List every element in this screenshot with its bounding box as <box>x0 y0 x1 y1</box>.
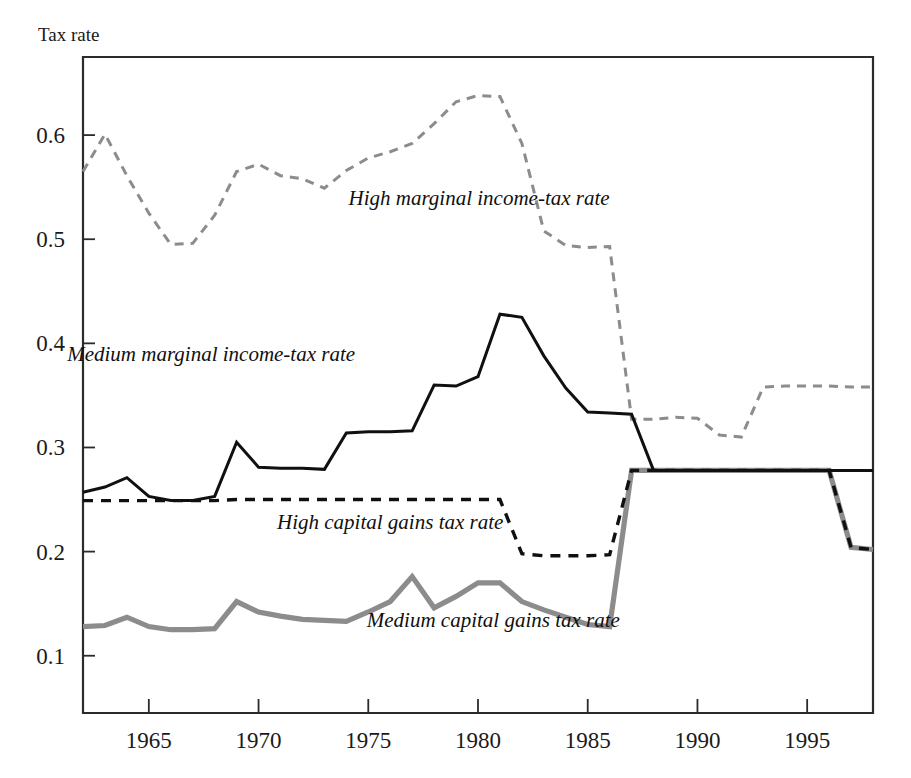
y-tick-label: 0.4 <box>36 331 65 356</box>
y-tick-label: 0.5 <box>36 227 65 252</box>
x-tick-label: 1995 <box>784 728 830 753</box>
y-tick-label: 0.2 <box>36 540 65 565</box>
chart-canvas: Tax rate 0.10.20.30.40.50.6 196519701975… <box>0 0 911 778</box>
series-label-medium_capgains: Medium capital gains tax rate <box>366 608 620 632</box>
series-label-high_marginal: High marginal income-tax rate <box>348 186 610 210</box>
x-tick-label: 1965 <box>126 728 172 753</box>
x-tick-label: 1970 <box>236 728 282 753</box>
x-tick-label: 1980 <box>455 728 501 753</box>
chart-background <box>0 0 911 778</box>
y-tick-label: 0.6 <box>36 123 65 148</box>
x-tick-label: 1985 <box>565 728 611 753</box>
x-tick-label: 1990 <box>674 728 720 753</box>
series-label-high_capgains: High capital gains tax rate <box>276 510 503 534</box>
y-tick-label: 0.3 <box>36 435 65 460</box>
y-axis-title: Tax rate <box>38 24 99 45</box>
tax-rate-chart: Tax rate 0.10.20.30.40.50.6 196519701975… <box>0 0 911 778</box>
series-label-medium_marginal: Medium marginal income-tax rate <box>66 342 355 366</box>
x-tick-label: 1975 <box>345 728 391 753</box>
y-tick-label: 0.1 <box>36 644 65 669</box>
